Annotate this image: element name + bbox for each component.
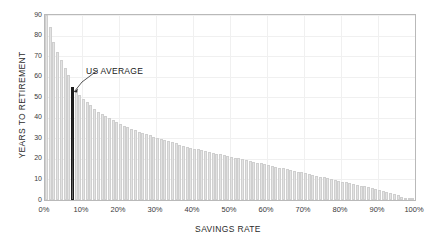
bar [323, 177, 326, 200]
bar [319, 177, 322, 200]
bar [149, 135, 152, 200]
bar [193, 149, 196, 200]
bar [374, 189, 377, 200]
bar [286, 169, 289, 200]
bar [356, 185, 359, 200]
y-tick-label: 70 [6, 52, 42, 59]
bar [397, 195, 400, 200]
bar [382, 191, 385, 200]
x-tick-label: 30% [135, 205, 175, 214]
bar [156, 138, 159, 200]
bar [341, 182, 344, 201]
us-average-annotation: US AVERAGE [86, 66, 143, 76]
bar [134, 130, 137, 200]
bar [330, 179, 333, 200]
bar [245, 160, 248, 200]
bar [56, 52, 59, 200]
bar [311, 175, 314, 200]
bar [278, 168, 281, 200]
y-tick-label: 0 [6, 196, 42, 203]
x-tick-label: 40% [172, 205, 212, 214]
bar [219, 154, 222, 200]
x-tick-label: 100% [394, 205, 434, 214]
bar [315, 176, 318, 200]
bar [378, 190, 381, 200]
y-tick-label: 50 [6, 93, 42, 100]
bar [78, 95, 81, 200]
bar [64, 68, 67, 200]
bar [367, 187, 370, 200]
bar [260, 163, 263, 200]
bar [337, 181, 340, 200]
bar [60, 60, 63, 200]
bar [178, 145, 181, 201]
bar [289, 170, 292, 200]
bar [230, 157, 233, 200]
bar [167, 141, 170, 200]
bar [400, 197, 403, 200]
bar [75, 91, 78, 200]
bar [186, 147, 189, 200]
bar [360, 186, 363, 200]
bar [223, 155, 226, 200]
bar [226, 156, 229, 200]
bar [160, 139, 163, 200]
y-tick-label: 30 [6, 134, 42, 141]
bar [97, 112, 100, 200]
bar [45, 15, 48, 200]
bar [267, 165, 270, 200]
bar [385, 192, 388, 200]
bar [308, 174, 311, 200]
bar [89, 105, 92, 200]
bar [393, 194, 396, 200]
x-tick-label: 50% [209, 205, 249, 214]
y-tick-label: 80 [6, 31, 42, 38]
bar [101, 114, 104, 200]
bar [326, 178, 329, 200]
savings-rate-chart: YEARS TO RETIREMENT 0102030405060708090 … [0, 0, 435, 244]
bar [204, 151, 207, 200]
bar [234, 158, 237, 200]
bar [171, 142, 174, 200]
bar [82, 99, 85, 200]
x-tick-label: 10% [61, 205, 101, 214]
bar [352, 184, 355, 200]
bar [93, 109, 96, 200]
bar [189, 148, 192, 200]
bar [237, 158, 240, 200]
bar [404, 198, 407, 200]
bar [67, 75, 70, 200]
bar [141, 133, 144, 200]
bar [52, 42, 55, 200]
bar [182, 146, 185, 200]
bar [115, 122, 118, 200]
x-tick-label: 60% [246, 205, 286, 214]
y-tick-label: 60 [6, 72, 42, 79]
bar [86, 102, 89, 200]
bar [138, 132, 141, 200]
x-tick-label: 0% [24, 205, 64, 214]
bar [126, 127, 129, 200]
y-tick-label: 20 [6, 154, 42, 161]
bar [163, 140, 166, 200]
bar [130, 129, 133, 200]
bar [300, 172, 303, 200]
y-tick-label: 90 [6, 11, 42, 18]
bar [249, 161, 252, 200]
bar [200, 150, 203, 200]
bar [123, 126, 126, 200]
bar [241, 159, 244, 200]
bar [371, 188, 374, 200]
bar [334, 180, 337, 200]
x-tick-label: 80% [320, 205, 360, 214]
bar [282, 168, 285, 200]
bars-layer [45, 15, 415, 200]
bar [208, 152, 211, 200]
bar [145, 134, 148, 200]
x-axis-title: SAVINGS RATE [38, 224, 418, 234]
bar [304, 173, 307, 200]
bar [293, 171, 296, 200]
bar [271, 166, 274, 200]
bar [252, 162, 255, 200]
bar [263, 164, 266, 200]
